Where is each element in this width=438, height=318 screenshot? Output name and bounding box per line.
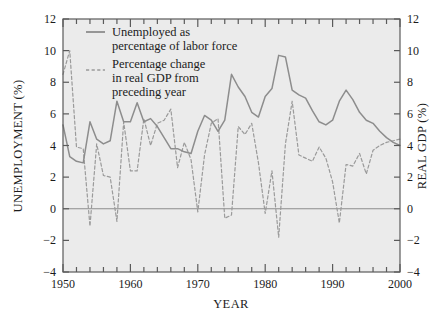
- y-tick-label-right: −2: [407, 233, 420, 247]
- legend-label-real-gdp-line1: Percentage change: [112, 57, 206, 71]
- legend-label-real-gdp-line3: preceding year: [112, 85, 187, 99]
- y-axis-left-title: UNEMPLOYMENT (%): [11, 80, 25, 213]
- unemployment-gdp-chart: −4−2024681012 −4−2024681012 195019601970…: [0, 0, 438, 318]
- y-tick-label-right: 12: [407, 12, 419, 26]
- y-tick-label-right: 4: [407, 139, 413, 153]
- chart-page: −4−2024681012 −4−2024681012 195019601970…: [0, 0, 438, 318]
- y-tick-label-left: 0: [50, 202, 56, 216]
- y-tick-label-left: 12: [44, 12, 56, 26]
- y-tick-label-left: −2: [43, 233, 56, 247]
- x-tick-label: 1960: [118, 277, 142, 291]
- y-tick-label-right: 0: [407, 202, 413, 216]
- x-tick-label: 1970: [186, 277, 210, 291]
- x-axis-title: YEAR: [213, 297, 249, 311]
- legend-label-unemployment-line2: percentage of labor force: [112, 39, 238, 53]
- y-tick-label-right: 6: [407, 107, 413, 121]
- legend-label-real-gdp-line2: in real GDP from: [112, 71, 199, 85]
- y-tick-label-left: 10: [44, 44, 56, 58]
- x-tick-label: 1990: [321, 277, 345, 291]
- y-tick-label-right: 8: [407, 75, 413, 89]
- legend-label-unemployment-line1: Unemployed as: [112, 25, 190, 39]
- y-tick-label-left: 6: [50, 107, 56, 121]
- y-tick-label-left: 4: [50, 139, 56, 153]
- x-tick-label: 1950: [51, 277, 75, 291]
- x-tick-label: 1980: [253, 277, 277, 291]
- y-axis-right-title: REAL GDP (%): [415, 103, 429, 190]
- y-tick-label-left: 8: [50, 75, 56, 89]
- y-tick-label-right: 10: [407, 44, 419, 58]
- y-tick-label-left: 2: [50, 170, 56, 184]
- x-tick-label: 2000: [388, 277, 412, 291]
- y-tick-label-right: 2: [407, 170, 413, 184]
